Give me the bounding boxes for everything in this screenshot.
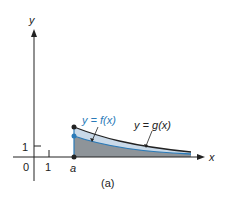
x-axis-label: x <box>208 151 215 163</box>
x-tick-1-label: 1 <box>45 161 51 173</box>
a-label: a <box>70 162 76 174</box>
point-g-at-a <box>72 125 77 130</box>
x-axis-arrow-icon <box>197 154 205 160</box>
point-a-on-x-axis <box>72 155 77 160</box>
y-tick-1-label: 1 <box>22 141 28 153</box>
figure-caption: (a) <box>101 177 114 189</box>
curve-g-label: y = g(x) <box>133 119 171 131</box>
g-label-leader <box>146 131 152 146</box>
y-axis-arrow-icon <box>31 29 37 37</box>
y-axis-label: y <box>28 14 36 26</box>
point-f-at-a <box>72 134 77 139</box>
improper-integral-comparison-diagram: y x 0 1 1 a y = f(x) y = g(x) (a) <box>0 0 229 199</box>
curve-f-label: y = f(x) <box>81 114 116 126</box>
origin-label: 0 <box>23 161 29 173</box>
